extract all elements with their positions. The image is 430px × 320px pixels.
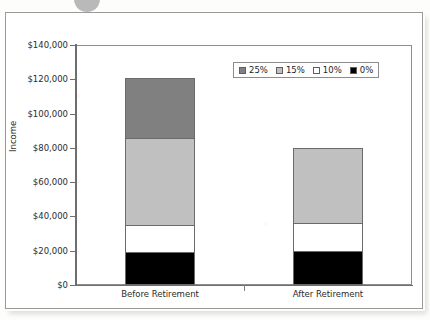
y-axis-tick-mark: [70, 45, 76, 46]
bar-segment-0pct[interactable]: [125, 252, 195, 285]
y-axis-tick-label: $40,000: [33, 211, 68, 221]
legend-swatch-icon: [276, 67, 283, 74]
y-axis-tick-labels: $140,000$120,000$100,000$80,000$60,000$4…: [0, 0, 68, 320]
x-axis-category-label: Before Retirement: [121, 289, 199, 299]
stacked-bar[interactable]: [125, 45, 195, 285]
legend-item[interactable]: 10%: [313, 65, 342, 75]
legend-item[interactable]: 15%: [276, 65, 305, 75]
legend-label: 25%: [249, 65, 268, 75]
y-axis-tick-mark: [70, 285, 76, 286]
stacked-bar-stack: [293, 148, 363, 285]
legend-label: 0%: [360, 65, 374, 75]
legend-item[interactable]: 0%: [350, 65, 374, 75]
y-axis-tick-label: $20,000: [33, 246, 68, 256]
bar-segment-15pct[interactable]: [125, 138, 195, 225]
y-axis-title: Income: [8, 121, 18, 152]
chart-page: $140,000$120,000$100,000$80,000$60,000$4…: [0, 0, 430, 320]
legend-item[interactable]: 25%: [239, 65, 268, 75]
legend-label: 15%: [286, 65, 305, 75]
y-axis-tick-mark: [70, 251, 76, 252]
y-axis-tick-label: $80,000: [33, 143, 68, 153]
bar-segment-25pct[interactable]: [125, 78, 195, 138]
y-axis-tick-label: $0: [57, 280, 68, 290]
y-axis-tick-mark: [70, 148, 76, 149]
page-badge-circle: [74, 0, 100, 12]
stacked-bar[interactable]: [293, 45, 363, 285]
y-axis-tick-mark: [70, 182, 76, 183]
y-axis-line: [75, 44, 77, 286]
legend-swatch-icon: [313, 67, 320, 74]
bar-segment-10pct[interactable]: [125, 225, 195, 252]
bar-segment-15pct[interactable]: [293, 148, 363, 223]
x-axis-category-label: After Retirement: [293, 289, 363, 299]
legend-swatch-icon: [350, 67, 357, 74]
y-axis-tick-label: $120,000: [27, 74, 68, 84]
legend-swatch-icon: [239, 67, 246, 74]
y-axis-tick-mark: [70, 114, 76, 115]
legend-label: 10%: [323, 65, 342, 75]
y-axis-tick-mark: [70, 216, 76, 217]
stacked-bar-stack: [125, 78, 195, 285]
bar-segment-10pct[interactable]: [293, 223, 363, 250]
y-axis-tick-label: $140,000: [27, 40, 68, 50]
y-axis-tick-label: $100,000: [27, 109, 68, 119]
y-axis-tick-label: $60,000: [33, 177, 68, 187]
chart-legend[interactable]: 25%15%10%0%: [233, 62, 379, 78]
x-axis-category-divider-tick: [244, 285, 245, 291]
y-axis-tick-mark: [70, 79, 76, 80]
bar-segment-0pct[interactable]: [293, 251, 363, 285]
